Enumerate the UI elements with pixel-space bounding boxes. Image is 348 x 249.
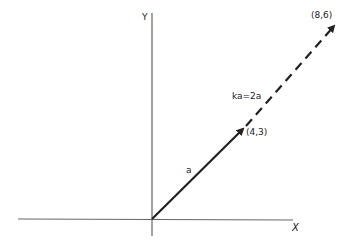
diagram-graphics [0, 0, 348, 249]
vector-a-solid [152, 129, 243, 219]
point-label-4-3: (4,3) [246, 128, 267, 137]
vector-ka-label: ka=2a [232, 92, 261, 101]
vector-diagram: Y X (8,6) ka=2a (4,3) a [0, 0, 348, 249]
y-axis-label: Y [142, 13, 148, 22]
vector-a-label: a [186, 166, 192, 175]
x-axis [18, 219, 293, 220]
point-label-8-6: (8,6) [311, 11, 332, 20]
x-axis-label: X [292, 223, 299, 233]
vector-ka-dashed [246, 26, 334, 126]
